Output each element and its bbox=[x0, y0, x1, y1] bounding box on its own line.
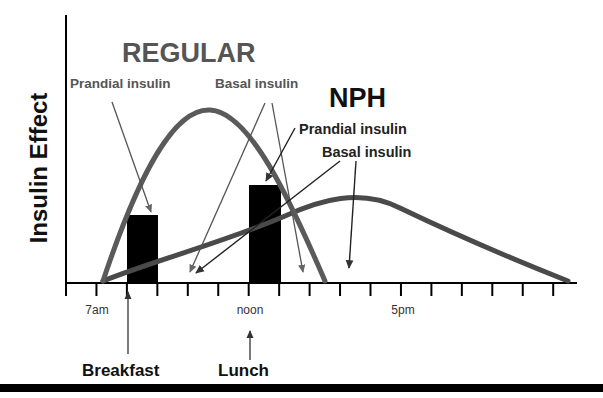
nph-title: NPH bbox=[329, 83, 386, 113]
lunch-label: Lunch bbox=[218, 361, 269, 380]
footer-rule bbox=[0, 384, 603, 392]
nph-prandial-label: Prandial insulin bbox=[299, 121, 407, 137]
regular-title: REGULAR bbox=[122, 38, 256, 68]
regular-prandial-arrow bbox=[112, 102, 151, 212]
nph-basal-label: Basal insulin bbox=[322, 144, 411, 160]
y-axis-label: Insulin Effect bbox=[25, 93, 52, 244]
tick-label-5pm: 5pm bbox=[391, 303, 414, 317]
lunch-prandial-bar bbox=[249, 185, 281, 283]
tick-label-7am: 7am bbox=[85, 303, 108, 317]
insulin-effect-chart: Insulin Effect 7am noon 5pm REGULAR Pran… bbox=[0, 0, 603, 398]
x-axis-ticks bbox=[66, 283, 553, 296]
nph-basal-arrow-right bbox=[349, 161, 356, 268]
tick-label-noon: noon bbox=[237, 303, 264, 317]
regular-basal-label: Basal insulin bbox=[215, 76, 298, 91]
nph-curve bbox=[103, 198, 568, 281]
regular-prandial-label: Prandial insulin bbox=[70, 76, 171, 91]
breakfast-label: Breakfast bbox=[82, 361, 160, 380]
nph-prandial-arrow bbox=[266, 128, 295, 181]
